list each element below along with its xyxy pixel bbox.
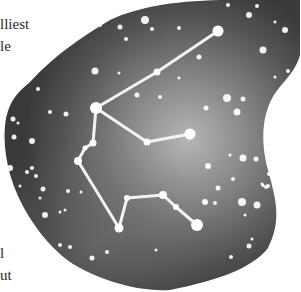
- background-star: [226, 3, 230, 7]
- background-star: [177, 26, 181, 30]
- background-star: [264, 185, 268, 189]
- background-star: [254, 202, 261, 209]
- background-star: [19, 185, 22, 188]
- background-star: [197, 55, 202, 60]
- background-star: [278, 179, 282, 183]
- background-star: [92, 68, 99, 75]
- background-star: [80, 191, 83, 194]
- background-star: [98, 23, 102, 27]
- constellation-star: [74, 157, 82, 165]
- background-star: [124, 37, 128, 41]
- background-star: [64, 209, 67, 212]
- background-star: [155, 249, 158, 252]
- background-star: [251, 238, 254, 241]
- background-star: [238, 198, 246, 206]
- background-star: [135, 93, 140, 98]
- background-star: [150, 27, 154, 31]
- constellation-star: [185, 129, 196, 140]
- background-star: [178, 77, 181, 80]
- background-star: [213, 201, 217, 205]
- constellation-star: [191, 219, 203, 231]
- background-star: [231, 177, 235, 181]
- background-star: [265, 135, 269, 139]
- background-star: [25, 170, 29, 174]
- background-star: [205, 163, 211, 169]
- constellation-star: [154, 69, 161, 76]
- background-star: [105, 250, 109, 254]
- background-star: [68, 245, 72, 249]
- background-star: [202, 199, 208, 205]
- text-fragment: lliest: [0, 17, 29, 32]
- background-star: [276, 184, 279, 187]
- background-star: [255, 4, 259, 8]
- background-star: [261, 183, 264, 186]
- background-star: [42, 212, 48, 218]
- background-star: [281, 196, 284, 199]
- background-star: [282, 27, 288, 33]
- background-star: [39, 197, 42, 200]
- background-star: [48, 110, 52, 114]
- constellation-star: [90, 140, 97, 147]
- background-star: [158, 95, 162, 99]
- background-star: [141, 16, 149, 24]
- constellation-star: [83, 146, 88, 151]
- constellation-star: [90, 102, 102, 114]
- background-star: [118, 25, 123, 30]
- background-star: [30, 166, 34, 170]
- text-fragment: ut: [0, 268, 12, 283]
- background-star: [279, 87, 283, 91]
- background-star: [118, 72, 121, 75]
- background-star: [204, 106, 209, 111]
- text-fragment: le: [0, 39, 11, 54]
- background-star: [36, 87, 40, 91]
- constellation-star: [213, 26, 224, 37]
- background-star: [267, 120, 272, 125]
- background-star: [274, 21, 277, 24]
- background-star: [286, 69, 290, 73]
- constellation-star: [115, 224, 124, 233]
- background-star: [274, 76, 277, 79]
- text-fragment: l: [0, 246, 4, 261]
- background-star: [12, 135, 17, 140]
- background-star: [267, 172, 271, 176]
- background-star: [41, 187, 46, 192]
- background-star: [223, 94, 231, 102]
- background-star: [229, 154, 232, 157]
- background-star: [66, 189, 70, 193]
- background-star: [11, 117, 16, 122]
- constellation-star: [124, 195, 130, 201]
- background-star: [90, 256, 95, 261]
- constellation-illustration: [0, 0, 300, 292]
- constellation-star: [159, 191, 167, 199]
- background-star: [7, 165, 13, 171]
- background-star: [29, 138, 35, 144]
- constellation-star: [144, 139, 151, 146]
- background-star: [260, 47, 267, 54]
- background-star: [59, 211, 62, 214]
- background-star: [216, 186, 221, 191]
- watercolor-wash: [5, 0, 301, 290]
- background-star: [58, 243, 62, 247]
- background-star: [241, 97, 246, 102]
- background-star: [229, 255, 233, 259]
- background-star: [17, 122, 20, 125]
- background-star: [254, 157, 259, 162]
- background-star: [64, 112, 69, 117]
- background-star: [34, 174, 38, 178]
- background-star: [244, 214, 247, 217]
- background-star: [246, 12, 252, 18]
- background-star: [240, 155, 247, 162]
- background-star: [234, 109, 241, 116]
- constellation-star: [173, 204, 179, 210]
- background-star: [247, 244, 252, 249]
